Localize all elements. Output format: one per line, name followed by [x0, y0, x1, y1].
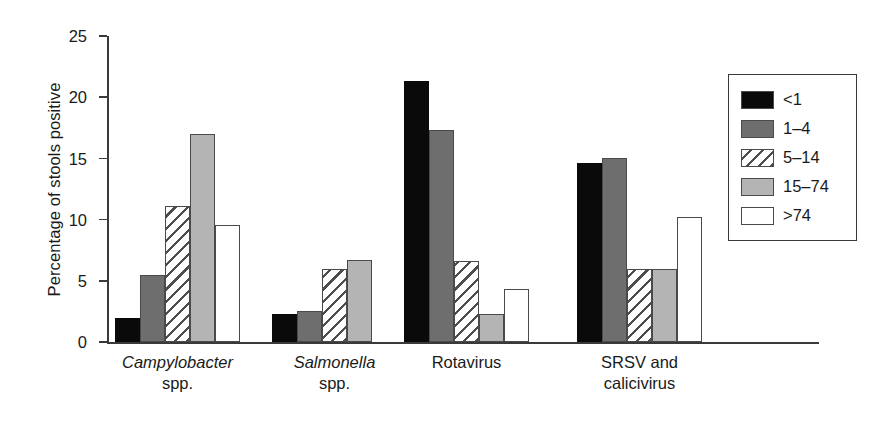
bar	[677, 217, 702, 342]
legend-item-label: >74	[783, 206, 811, 225]
swatch-solid-black-icon	[741, 91, 774, 109]
legend-item-label: <1	[783, 90, 802, 109]
bar	[215, 225, 240, 343]
bar	[140, 275, 165, 342]
legend: <11–45–1415–74>74	[728, 74, 857, 241]
x-group-label: SRSV andcalicivirus	[530, 352, 750, 394]
y-tick-label: 25	[69, 27, 87, 46]
y-tick: 15	[99, 158, 107, 160]
bar	[429, 130, 454, 342]
swatch-diagonal-hatch-icon	[741, 149, 774, 167]
swatch-solid-dark-gray-icon	[741, 120, 774, 138]
bar	[577, 163, 602, 342]
y-tick-label: 0	[78, 333, 87, 352]
legend-item: 5–14	[741, 143, 856, 172]
bar	[404, 81, 429, 342]
bar	[272, 314, 297, 342]
bar	[165, 206, 190, 342]
x-group-label-line2: calicivirus	[530, 373, 750, 394]
plot-area: 0510152025 Campylobacterspp.Salmonellasp…	[107, 36, 819, 342]
bar	[504, 289, 529, 342]
y-tick-label: 15	[69, 149, 87, 168]
bar	[347, 260, 372, 342]
y-tick: 10	[99, 219, 107, 221]
legend-item: 1–4	[741, 114, 856, 143]
legend-item: 15–74	[741, 172, 856, 201]
bar	[322, 269, 347, 342]
legend-item: >74	[741, 201, 856, 230]
bar	[190, 134, 215, 342]
y-tick-label: 10	[69, 210, 87, 229]
bar-chart-figure: Percentage of stools positive 0510152025…	[0, 0, 876, 428]
bar	[454, 261, 479, 342]
legend-item-label: 5–14	[783, 148, 820, 167]
x-axis-line	[107, 342, 819, 344]
y-tick-label: 5	[78, 272, 87, 291]
swatch-solid-white-icon	[741, 207, 774, 225]
y-tick: 25	[99, 35, 107, 37]
y-tick: 5	[99, 280, 107, 282]
bar	[627, 269, 652, 342]
legend-item: <1	[741, 85, 856, 114]
swatch-solid-light-gray-icon	[741, 178, 774, 196]
legend-item-label: 1–4	[783, 119, 811, 138]
y-axis-title: Percentage of stools positive	[45, 30, 64, 350]
x-group-label-line2: spp.	[225, 373, 445, 394]
bar	[115, 318, 140, 342]
bar	[602, 158, 627, 342]
y-tick: 20	[99, 96, 107, 98]
y-axis-line	[107, 36, 109, 342]
x-group-label-line1: SRSV and	[530, 352, 750, 373]
legend-item-label: 15–74	[783, 177, 829, 196]
bar	[297, 311, 322, 342]
bar	[479, 314, 504, 342]
y-tick: 0	[99, 341, 107, 343]
bar	[652, 269, 677, 342]
y-tick-label: 20	[69, 88, 87, 107]
